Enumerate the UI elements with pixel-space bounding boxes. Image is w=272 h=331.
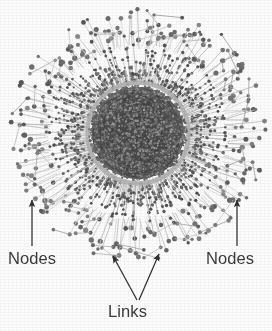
label-links: Links xyxy=(108,303,147,320)
radial-network-graph xyxy=(0,0,272,331)
label-nodes-left: Nodes xyxy=(8,250,56,267)
label-nodes-right: Nodes xyxy=(206,250,254,267)
network-figure: Nodes Nodes Links xyxy=(0,0,272,331)
